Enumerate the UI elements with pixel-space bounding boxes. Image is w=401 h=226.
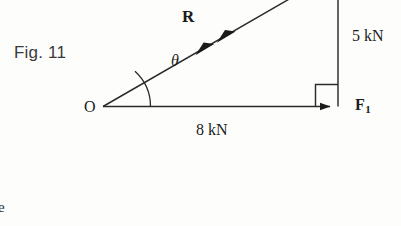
origin-label: O xyxy=(84,99,96,115)
force-f1-symbol: F xyxy=(355,96,365,113)
right-angle-marker xyxy=(316,85,339,107)
clipped-glyph: e xyxy=(0,200,5,215)
force-vector-diagram xyxy=(0,0,401,226)
resultant-arrowhead-upper xyxy=(217,30,236,43)
figure-canvas: Fig. 11 R θ O 8 kN 5 kN F1 e xyxy=(0,0,401,226)
force-f1-label: F1 xyxy=(355,97,371,115)
figure-caption: Fig. 11 xyxy=(14,44,66,61)
angle-label: θ xyxy=(171,53,179,69)
force-f1-subscript: 1 xyxy=(365,103,371,115)
resultant-label: R xyxy=(182,8,194,25)
horizontal-magnitude-label: 8 kN xyxy=(196,122,228,138)
vertical-magnitude-label: 5 kN xyxy=(352,28,384,44)
angle-arc xyxy=(135,71,151,106)
resultant-arrowhead-lower xyxy=(195,42,214,55)
